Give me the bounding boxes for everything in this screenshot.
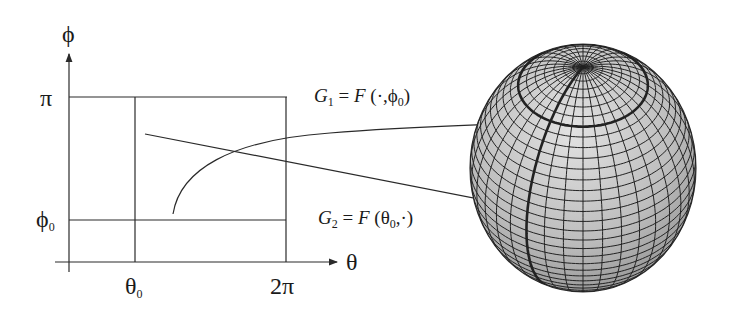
tick-two-pi: 2π — [270, 274, 294, 298]
g2-mapping-arrow — [145, 134, 520, 207]
diagram-svg — [0, 0, 730, 315]
tick-pi: π — [40, 86, 52, 110]
left-plot — [55, 54, 520, 272]
tick-theta0: θ0 — [125, 274, 143, 300]
y-axis-label: ϕ — [62, 22, 75, 46]
g1-mapping-arrow — [173, 124, 500, 214]
tick-phi0: ϕ0 — [36, 207, 55, 233]
g1-equation: G1 = F (·,ϕ0) — [314, 86, 410, 108]
x-axis-label: θ — [346, 250, 358, 274]
sphere — [470, 44, 696, 292]
g2-equation: G2 = F (θ0,·) — [318, 208, 413, 230]
diagram-canvas: ϕ θ π ϕ0 θ0 2π G1 = F (·,ϕ0) G2 = F (θ0,… — [0, 0, 730, 315]
